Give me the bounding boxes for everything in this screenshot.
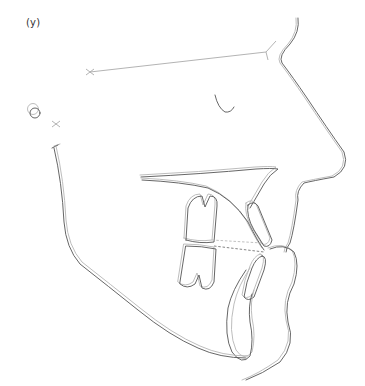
- orbit-tracing: [215, 95, 234, 112]
- porion-marker: [28, 104, 41, 119]
- cephalometric-tracing: [0, 0, 365, 386]
- occlusal-plane: [212, 240, 264, 252]
- basion-marker-icon: [52, 121, 60, 127]
- sella-nasion-line: [86, 41, 276, 75]
- upper-molar: [184, 194, 217, 243]
- lower-incisor: [242, 254, 266, 300]
- soft-tissue-profile: [242, 18, 346, 380]
- lower-molar: [178, 244, 216, 289]
- upper-incisor: [246, 201, 272, 247]
- symphysis: [227, 268, 254, 360]
